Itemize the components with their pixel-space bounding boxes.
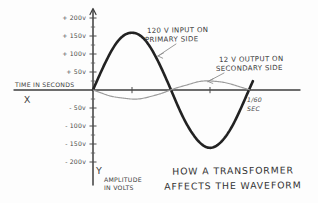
y-axis-letter: Y <box>95 165 102 176</box>
period-marker-line2: SEC <box>247 105 260 112</box>
y-tick-label: - 100v <box>65 122 86 129</box>
primary-annotation-arrow-icon <box>158 44 176 58</box>
waveform-chart: + 200v+ 150v+ 100v+ 50v- 50v- 100v- 150v… <box>0 0 318 203</box>
y-tick-label: + 150v <box>62 32 86 39</box>
y-tick-label: + 50v <box>66 68 86 75</box>
y-axis-title-line1: AMPLITUDE <box>104 176 142 183</box>
y-axis-title-line2: IN VOLTS <box>104 184 134 191</box>
primary-series-label-line1: 120 V INPUT ON <box>147 26 209 35</box>
y-tick-label: - 50v <box>69 104 86 111</box>
period-marker-line1: 1/60 <box>247 96 262 103</box>
y-tick-label: + 200v <box>62 14 86 21</box>
secondary-series-label-line1: 12 V OUTPUT ON <box>219 55 284 64</box>
y-tick-label: - 150v <box>65 140 86 147</box>
y-tick-label: - 200v <box>65 158 86 165</box>
secondary-series-label-line2: SECONDARY SIDE <box>216 64 283 73</box>
x-axis-letter: X <box>24 94 31 105</box>
primary-series-label-line2: PRIMARY SIDE <box>145 35 199 44</box>
x-axis-title: TIME IN SECONDS <box>14 81 74 88</box>
transformer-waveform-figure: + 200v+ 150v+ 100v+ 50v- 50v- 100v- 150v… <box>0 0 318 203</box>
chart-title-line2: AFFECTS THE WAVEFORM <box>164 179 301 191</box>
chart-title-line1: HOW A TRANSFORMER <box>172 164 294 176</box>
y-tick-label: + 100v <box>62 50 86 57</box>
